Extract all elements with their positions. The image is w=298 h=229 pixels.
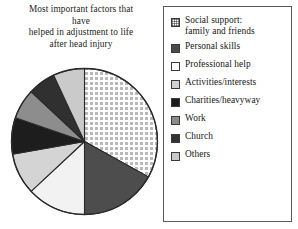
legend-swatch-icon [171, 98, 180, 107]
legend-item[interactable]: Personal skills [171, 41, 287, 55]
legend-box: Social support:family and friendsPersona… [163, 6, 292, 222]
legend-item[interactable]: Others [171, 149, 287, 163]
legend-swatch-icon [171, 116, 180, 125]
chart-title: Most important factors that have helped … [2, 4, 160, 50]
legend-item[interactable]: Church [171, 131, 287, 145]
legend-item[interactable]: Charities/heavyway [171, 95, 287, 109]
legend-item-label: Others [185, 149, 210, 160]
legend-item-label: Church [185, 131, 213, 142]
pie-svg [10, 67, 159, 216]
chart-title-line-4: after head injury [2, 39, 160, 51]
legend-swatch-icon [171, 80, 180, 89]
legend-item-label-line2: family and friends [185, 26, 255, 37]
legend-item-label: Charities/heavyway [185, 95, 260, 106]
legend-item-label: Personal skills [185, 41, 240, 52]
legend-item-label: Activities/interests [185, 77, 256, 88]
legend-item-label: Professional help [185, 59, 251, 70]
legend-item[interactable]: Activities/interests [171, 77, 287, 91]
legend-item[interactable]: Professional help [171, 59, 287, 73]
legend-swatch-icon [171, 18, 180, 27]
legend-swatch-icon [171, 134, 180, 143]
pie-chart [10, 67, 159, 216]
legend-swatch-icon [171, 44, 180, 53]
chart-title-line-3: helped in adjustment to life [2, 27, 160, 39]
legend-item[interactable]: Social support:family and friends [171, 15, 287, 37]
legend-list: Social support:family and friendsPersona… [171, 15, 287, 167]
legend-swatch-icon [171, 152, 180, 161]
legend-item[interactable]: Work [171, 113, 287, 127]
chart-title-line-2: have [2, 16, 160, 28]
pie-chart-figure: Most important factors that have helped … [0, 0, 298, 229]
chart-title-line-1: Most important factors that [2, 4, 160, 16]
legend-item-label: Social support:family and friends [185, 15, 255, 37]
legend-swatch-icon [171, 62, 180, 71]
legend-item-label: Work [185, 113, 206, 124]
